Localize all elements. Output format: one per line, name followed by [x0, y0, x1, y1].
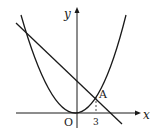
parabola-curve: [21, 15, 126, 113]
y-axis-label: y: [63, 7, 71, 21]
graph: y x O 3 A: [0, 0, 157, 135]
intersecting-line: [16, 23, 122, 124]
x-axis-arrow-icon: [135, 111, 141, 116]
point-a-label: A: [98, 88, 108, 101]
x-axis-label: x: [143, 108, 150, 122]
origin-label: O: [64, 116, 73, 129]
y-axis-arrow-icon: [75, 7, 80, 13]
x-tick-3: 3: [93, 117, 99, 127]
